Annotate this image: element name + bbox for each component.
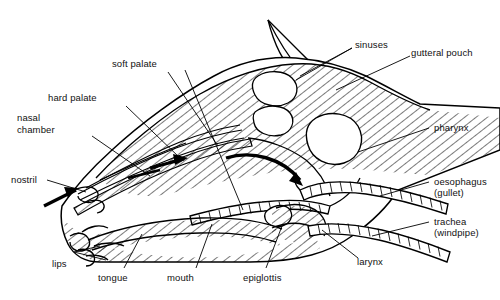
horse-head-diagram-svg: [0, 0, 500, 300]
label-nostril: nostril: [11, 174, 37, 185]
label-pharynx: pharynx: [434, 122, 469, 133]
frontal-sinus-cavity: [253, 72, 297, 106]
maxillary-sinus-cavity: [253, 106, 293, 136]
label-trachea-line2: (windpipe): [434, 227, 479, 238]
guttural-pouch-cavity: [306, 114, 361, 165]
label-trachea-line1: trachea: [434, 216, 466, 227]
label-nasal-chamber-line2: chamber: [17, 124, 55, 135]
label-larynx: larynx: [357, 256, 383, 267]
label-oesophagus-line1: oesophagus: [434, 176, 487, 187]
label-soft-palate: soft palate: [112, 58, 157, 69]
label-oesophagus-line2: (gullet): [434, 187, 464, 198]
label-gutteral-pouch: gutteral pouch: [411, 47, 473, 58]
label-nasal-chamber-line1: nasal: [17, 112, 40, 123]
anatomy-diagram-figure: soft palate hard palate nasal chamber no…: [0, 0, 500, 300]
label-lips: lips: [52, 258, 67, 269]
label-sinuses: sinuses: [355, 39, 388, 50]
label-epiglottis: epiglottis: [243, 272, 282, 283]
label-hard-palate: hard palate: [48, 92, 97, 103]
label-mouth: mouth: [167, 272, 194, 283]
label-tongue: tongue: [98, 272, 128, 283]
